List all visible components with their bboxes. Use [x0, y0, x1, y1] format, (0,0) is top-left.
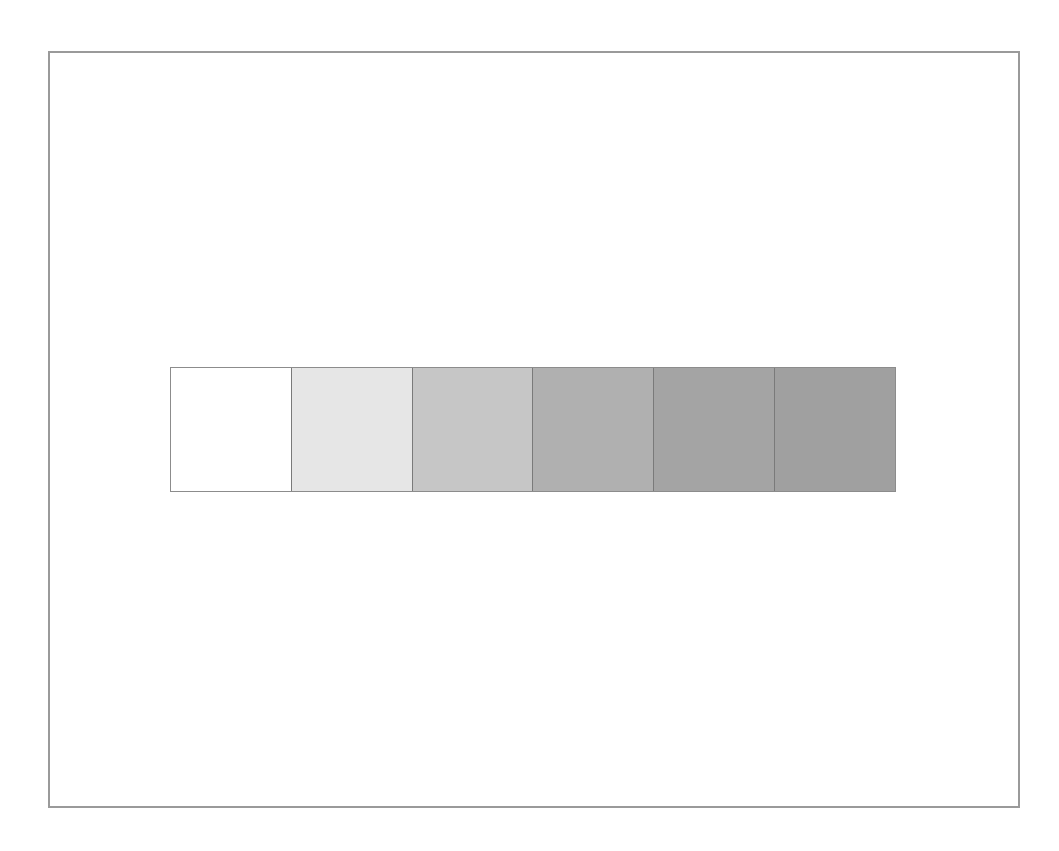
swatch-4 — [533, 368, 654, 491]
grayscale-swatch-strip — [170, 367, 896, 492]
swatch-6 — [775, 368, 895, 491]
swatch-2 — [292, 368, 413, 491]
swatch-1 — [171, 368, 292, 491]
swatch-3 — [413, 368, 534, 491]
swatch-5 — [654, 368, 775, 491]
